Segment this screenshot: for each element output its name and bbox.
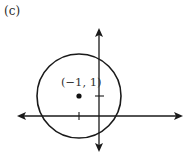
center-point (76, 93, 81, 98)
diagram-canvas: (−1, 1) (0, 0, 191, 166)
center-point-label: (−1, 1) (61, 75, 102, 89)
